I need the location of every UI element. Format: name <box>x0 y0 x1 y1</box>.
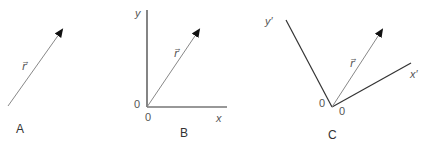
panel-caption-b: B <box>180 126 188 140</box>
origin-label-left: 0 <box>319 97 325 109</box>
vector-r-arrow <box>147 30 199 107</box>
panel-c: y′ x′ r⃗ 0 0 C <box>264 15 419 142</box>
vector-r-arrow <box>8 30 62 106</box>
x-prime-axis <box>332 63 411 107</box>
y-prime-axis <box>286 20 332 107</box>
vector-r-label: r⃗ <box>22 60 28 72</box>
origin-label-below: 0 <box>145 111 151 123</box>
origin-label-left: 0 <box>134 98 140 110</box>
panel-caption-a: A <box>16 122 24 136</box>
diagram-canvas: r⃗ A y x r⃗ 0 0 B y′ x′ r⃗ 0 0 C <box>0 0 428 150</box>
x-axis-label: x <box>215 112 222 124</box>
panel-b: y x r⃗ 0 0 B <box>134 7 227 140</box>
y-prime-axis-label: y′ <box>264 15 274 27</box>
x-prime-axis-label: x′ <box>409 68 419 80</box>
panel-a: r⃗ A <box>8 30 62 136</box>
origin-label-right: 0 <box>339 105 345 117</box>
vector-r-label: r⃗ <box>350 57 356 69</box>
vector-r-label: r⃗ <box>174 47 180 59</box>
y-axis-label: y <box>134 7 142 19</box>
panel-caption-c: C <box>328 128 337 142</box>
vector-r-arrow <box>332 30 382 107</box>
